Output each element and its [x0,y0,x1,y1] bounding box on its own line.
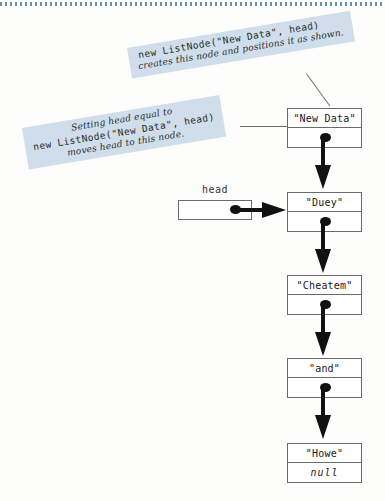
dotted-rule-top [0,2,385,6]
head-pointer-label: head [178,184,252,195]
next-arrow-head-icon [315,165,331,189]
leader-line-head [240,126,288,127]
node-data-cell: "and" [288,359,361,378]
node-data-cell: "Howe" [288,444,361,463]
list-node: "Howe" null [287,443,362,483]
callout-new-listnode: new ListNode("New Data", head) creates t… [127,11,355,79]
next-arrow-head-icon [315,415,331,439]
node-data-cell: "Cheatem" [288,276,361,295]
next-arrow-head-icon [315,249,331,273]
diagram-canvas: new ListNode("New Data", head) creates t… [0,0,385,501]
node-next-cell: null [288,463,361,482]
callout-set-head: Setting head equal to new ListNode("New … [22,95,226,170]
next-arrow-head-icon [315,332,331,356]
node-data-cell: "New Data" [288,109,361,128]
node-data-cell: "Duey" [288,193,361,212]
head-arrow-head-icon [262,202,286,218]
leader-line-new-node [306,73,330,106]
